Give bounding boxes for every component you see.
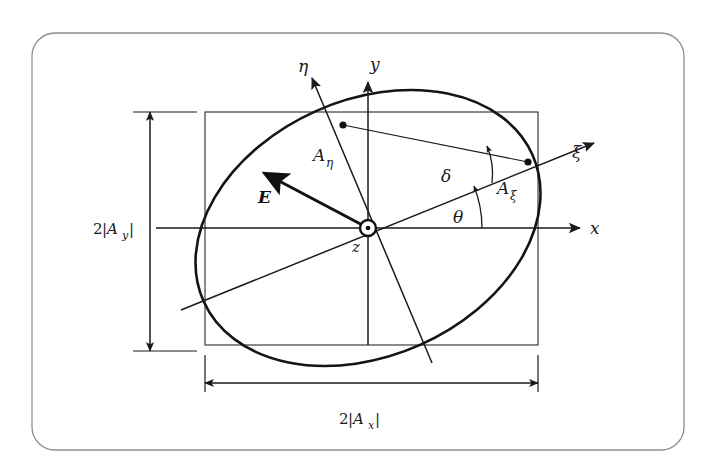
label-dim-height-tail: |	[129, 220, 134, 238]
figure-page: x y z ξ η A η A ξ E θ δ 2 |A y |	[0, 0, 705, 474]
label-dim-width-sub: x	[368, 419, 375, 432]
label-amp-eta-main: A	[311, 145, 325, 165]
label-field-vector-e: E	[257, 187, 272, 207]
label-dim-height-body: |A	[102, 220, 118, 238]
point-a-eta	[339, 121, 346, 128]
label-amp-eta-sub: η	[326, 156, 334, 170]
label-axis-x: x	[590, 218, 600, 238]
label-axis-y: y	[369, 54, 380, 74]
label-axis-z: z	[351, 238, 360, 256]
polarization-ellipse-figure: x y z ξ η A η A ξ E θ δ 2 |A y |	[0, 0, 705, 474]
label-angle-delta: δ	[441, 166, 451, 186]
origin-dot-icon	[366, 226, 371, 231]
point-a-xi	[524, 158, 531, 165]
label-amp-xi-main: A	[495, 178, 509, 198]
label-dim-width-body: |A	[348, 410, 364, 428]
label-dim-height-sub: y	[121, 229, 129, 242]
label-dim-width-tail: |	[375, 410, 380, 428]
label-axis-eta: η	[298, 56, 309, 76]
label-axis-xi: ξ	[572, 142, 583, 162]
label-angle-theta: θ	[453, 207, 463, 227]
